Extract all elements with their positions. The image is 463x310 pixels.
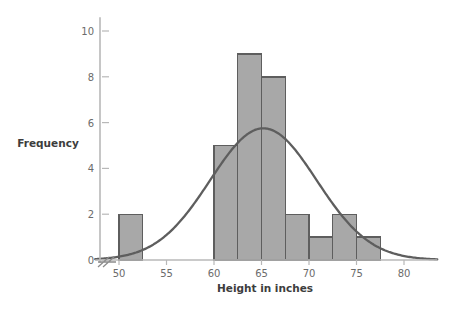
histogram-bar (285, 214, 309, 260)
x-tick-label: 75 (350, 268, 363, 279)
y-tick-label: 4 (88, 163, 94, 174)
x-tick-label: 70 (303, 268, 316, 279)
histogram-figure: 024681050556065707580 Frequency Height i… (0, 0, 463, 310)
histogram-bar (333, 214, 357, 260)
histogram-bar (262, 77, 286, 260)
x-tick-label: 50 (113, 268, 126, 279)
x-tick-label: 65 (255, 268, 268, 279)
x-axis-label: Height in inches (217, 282, 313, 294)
y-tick-label: 10 (81, 26, 94, 37)
x-tick-label: 60 (208, 268, 221, 279)
y-tick-label: 2 (88, 209, 94, 220)
histogram-bar (214, 146, 238, 261)
y-axis-label: Frequency (17, 137, 79, 149)
histogram-bar (309, 237, 333, 260)
y-tick-label: 8 (88, 72, 94, 83)
y-tick-label: 6 (88, 118, 94, 129)
x-tick-label: 55 (160, 268, 173, 279)
histogram-bar (238, 54, 262, 260)
y-tick-label: 0 (88, 255, 94, 266)
x-tick-label: 80 (398, 268, 411, 279)
